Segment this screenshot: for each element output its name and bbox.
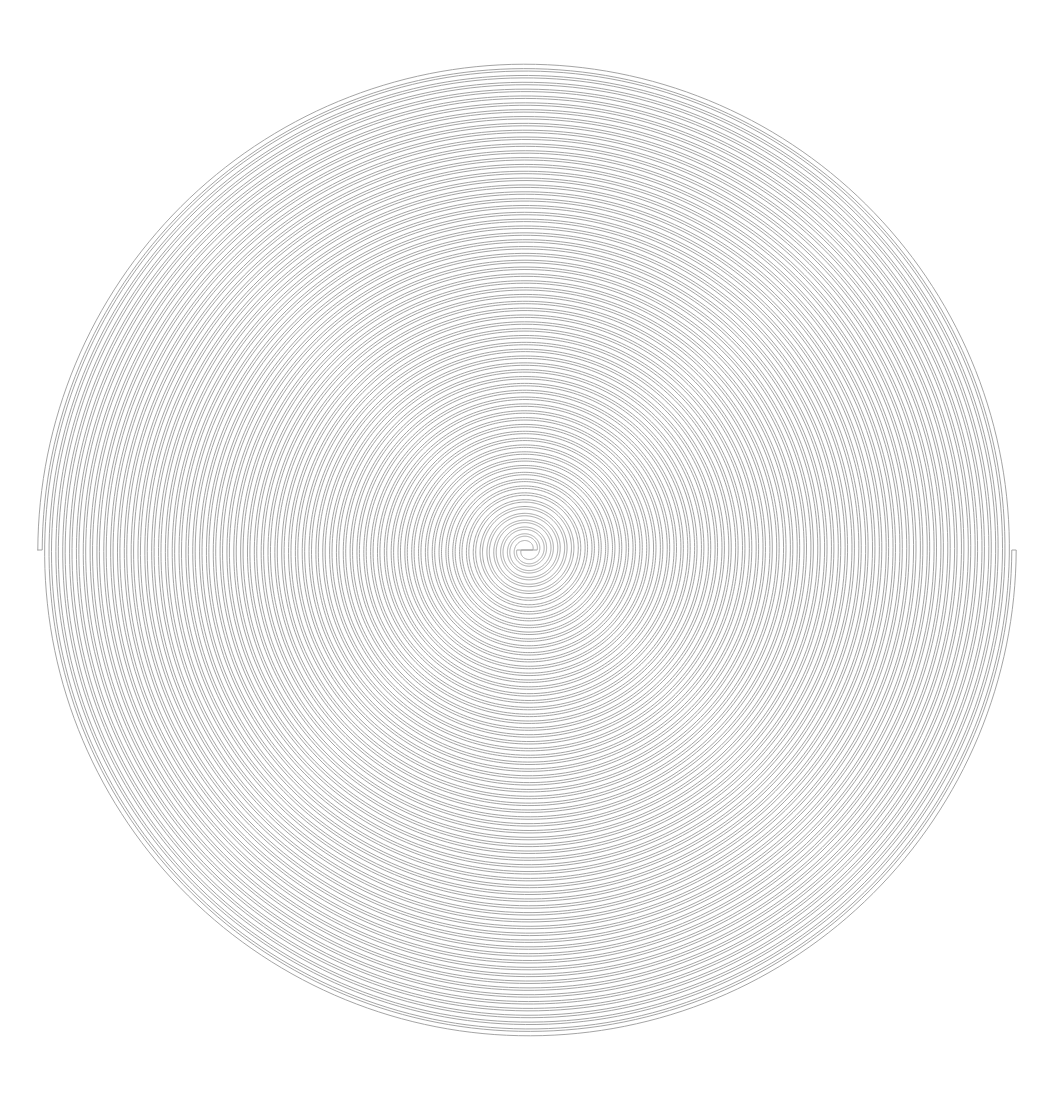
- spiral-figure: [0, 0, 1053, 1114]
- spiral-line: [38, 64, 1016, 1036]
